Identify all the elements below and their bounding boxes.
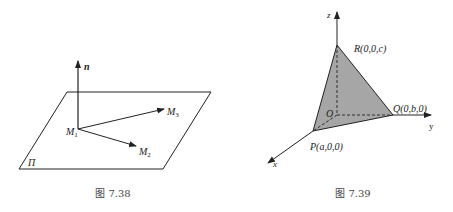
label-m3: M3: [166, 106, 179, 119]
label-point-p: P(a,0,0): [309, 141, 343, 153]
label-point-r: R(0,0,c): [353, 43, 387, 55]
label-m2: M2: [138, 146, 151, 159]
triangle-pqr: [313, 45, 393, 131]
label-plane-pi: Π: [27, 157, 36, 168]
label-n: n: [84, 61, 90, 72]
figure-7-38: n M1 M3 M2 Π 图 7.38: [19, 61, 211, 199]
figure-7-39: z y x O R(0,0,c) Q(0,b,0) P(a,0,0) 图 7.3…: [268, 10, 434, 199]
caption-fig-7-39: 图 7.39: [335, 188, 370, 199]
vector-m1-m2: [78, 129, 136, 146]
label-origin: O: [326, 108, 333, 119]
label-z-axis: z: [326, 10, 331, 20]
plane-pi: [19, 92, 211, 169]
diagram-canvas: n M1 M3 M2 Π 图 7.38 z y x O R(0,0,c) Q(0…: [0, 0, 453, 212]
caption-fig-7-38: 图 7.38: [95, 188, 130, 199]
vector-m1-m3: [78, 109, 164, 129]
label-x-axis: x: [272, 159, 277, 169]
label-y-axis: y: [429, 121, 434, 131]
label-m1: M1: [65, 126, 78, 139]
label-point-q: Q(0,b,0): [393, 103, 428, 115]
